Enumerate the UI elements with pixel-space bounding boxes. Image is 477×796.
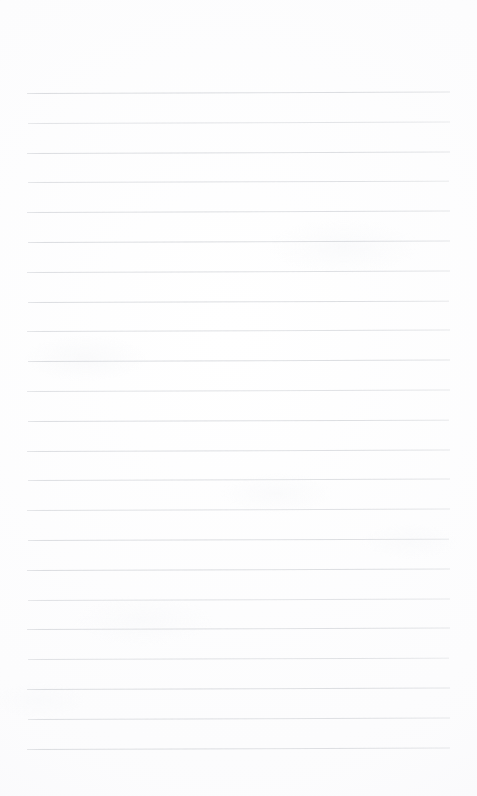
rule-line: [28, 300, 449, 302]
rule-line: [27, 568, 450, 571]
rule-line: [28, 598, 450, 600]
rule-line: [27, 509, 450, 512]
rule-line: [27, 628, 450, 631]
rule-line: [28, 479, 450, 481]
rule-line: [28, 539, 449, 541]
rule-line: [27, 211, 450, 214]
rule-line: [28, 360, 450, 362]
notebook-page: [0, 0, 477, 796]
rule-line: [27, 270, 450, 273]
rule-line: [28, 241, 450, 243]
rule-line: [28, 658, 449, 660]
paper-texture: [0, 0, 477, 796]
rule-line: [28, 419, 449, 421]
scan-artifact-blotches: [0, 0, 477, 796]
rule-line: [27, 389, 450, 392]
rule-line: [28, 121, 450, 123]
rule-line: [28, 181, 449, 183]
rule-line: [27, 91, 450, 94]
rule-line: [27, 747, 450, 750]
rule-line: [27, 151, 450, 154]
rule-line: [28, 717, 450, 719]
rule-line: [27, 449, 450, 452]
rule-line: [27, 687, 450, 690]
rule-line: [27, 330, 450, 333]
